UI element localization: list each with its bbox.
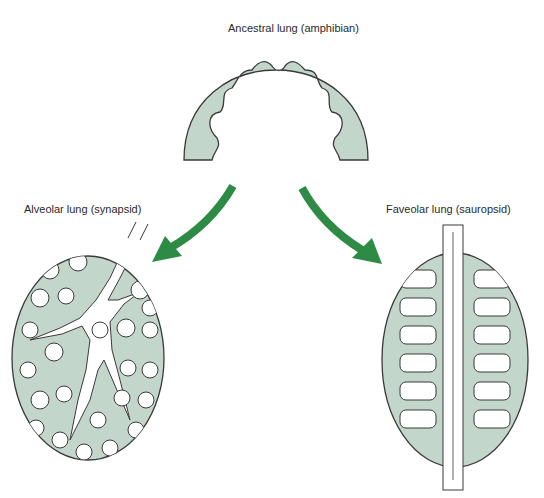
ancestral-lung-shape <box>184 62 368 160</box>
alveolar-lung-shape <box>12 222 164 460</box>
arrow-to-faveolar-icon <box>302 188 382 264</box>
faveolar-lung-shape <box>382 225 528 490</box>
arrow-to-alveolar-icon <box>152 186 233 262</box>
lung-evolution-diagram <box>0 0 544 498</box>
